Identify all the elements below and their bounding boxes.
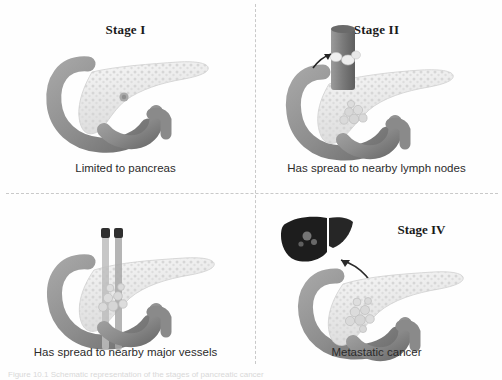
liver-metastasis <box>303 232 312 241</box>
lymph-node <box>330 53 342 62</box>
panel-stage-1: Stage I <box>0 0 251 190</box>
duct-top-opening <box>331 25 355 33</box>
liver-right-lobe <box>329 217 353 248</box>
liver <box>281 217 353 262</box>
panel-stage-2: Stage II <box>251 0 502 190</box>
liver-metastasis <box>311 239 317 245</box>
stage-2-caption: Has spread to nearby lymph nodes <box>251 162 502 174</box>
figure-bottom-caption: Figure 10.1 Schematic representation of … <box>8 370 478 379</box>
stage-3-caption: Has spread to nearby major vessels <box>0 346 251 358</box>
vessel-right-cap <box>114 228 123 238</box>
panel-stage-4: Stage IV <box>251 190 502 380</box>
stage-1-caption: Limited to pancreas <box>0 162 251 174</box>
stage-4-caption: Metastatic cancer <box>251 346 502 358</box>
pancreatic-cancer-staging-figure: Stage I <box>0 0 502 380</box>
panel-stage-3: Stage III <box>0 190 251 380</box>
lymph-node <box>352 51 361 59</box>
vessel-left-cap <box>101 228 110 238</box>
liver-metastasis <box>298 241 303 246</box>
